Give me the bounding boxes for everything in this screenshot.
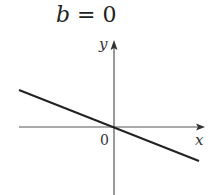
origin-label: 0 xyxy=(100,132,109,148)
plotted-line xyxy=(19,90,199,161)
x-axis-label: x xyxy=(195,131,204,149)
graph: y x 0 xyxy=(0,0,219,195)
y-axis-label: y xyxy=(98,35,108,53)
